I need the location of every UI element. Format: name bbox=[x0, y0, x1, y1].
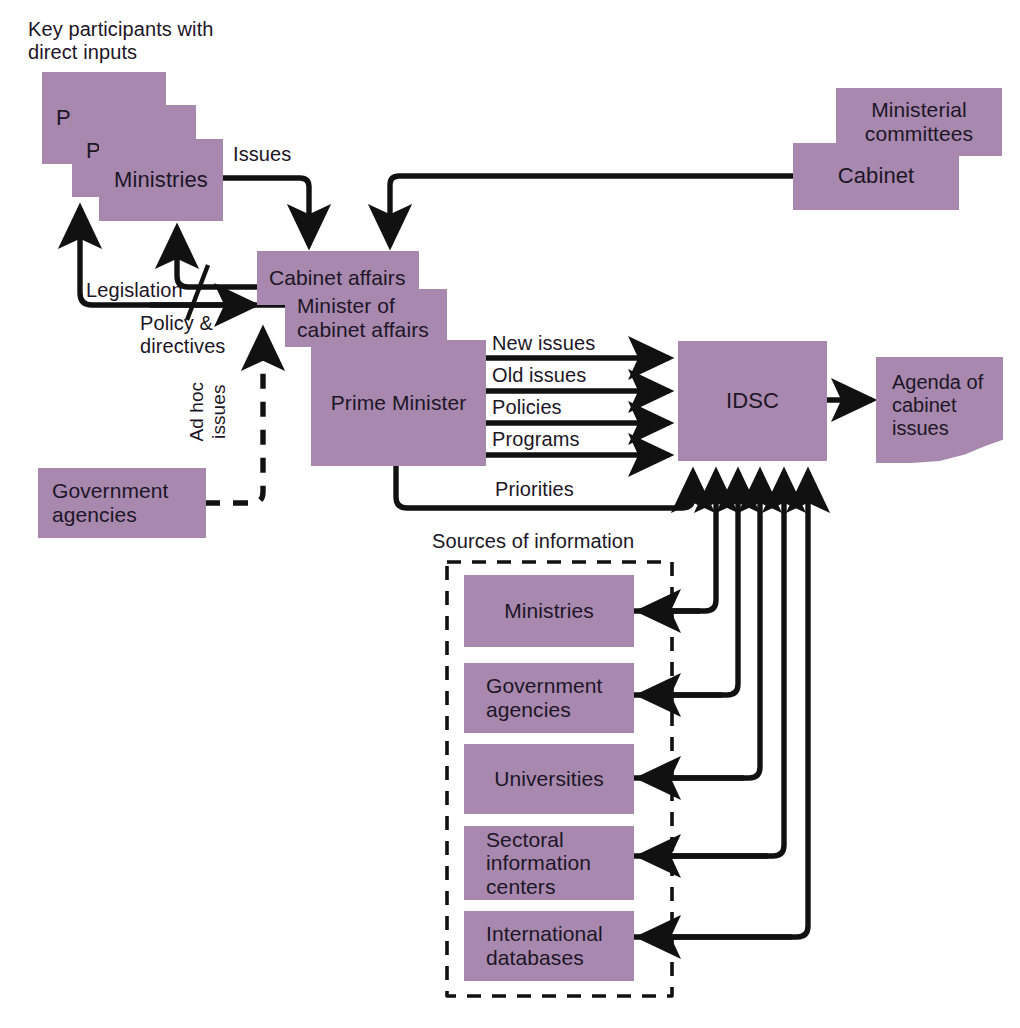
edge-label-old-issues: Old issues bbox=[492, 364, 586, 387]
node-ministries-top[interactable]: Ministries bbox=[99, 139, 223, 221]
node-idsc[interactable]: IDSC bbox=[678, 341, 827, 461]
edge-label-ad-hoc-issues: Ad hoc issues bbox=[186, 382, 229, 442]
edge-idsc-to-source-universities bbox=[634, 472, 760, 778]
edge-label-legislation: Legislation bbox=[86, 279, 183, 302]
key-participants-note: Key participants with direct inputs bbox=[28, 18, 214, 64]
node-minister-of-cabinet-affairs[interactable]: Minister of cabinet affairs bbox=[285, 289, 447, 347]
diagram-canvas: Key participants with direct inputs Pres… bbox=[0, 0, 1020, 1028]
node-agenda-of-cabinet-issues[interactable]: Agenda of cabinet issues bbox=[876, 357, 1003, 463]
edge-label-issues: Issues bbox=[233, 143, 291, 166]
node-government-agencies[interactable]: Government agencies bbox=[38, 468, 206, 538]
source-box-sectoral-information-centers[interactable]: Sectoral information centers bbox=[464, 826, 634, 900]
source-box-ministries[interactable]: Ministries bbox=[464, 575, 634, 647]
source-box-universities[interactable]: Universities bbox=[464, 744, 634, 814]
source-box-government-agencies[interactable]: Government agencies bbox=[464, 663, 634, 733]
edge-label-programs: Programs bbox=[492, 428, 580, 451]
sources-of-information-caption: Sources of information bbox=[432, 530, 634, 553]
edge-label-priorities: Priorities bbox=[495, 478, 574, 501]
edge-cabinet-to-cabinet-affairs bbox=[390, 176, 795, 245]
node-cabinet[interactable]: Cabinet bbox=[793, 143, 959, 210]
node-prime-minister[interactable]: Prime Minister bbox=[311, 340, 486, 466]
edge-label-policy-directives: Policy & directives bbox=[140, 312, 225, 358]
agenda-label: Agenda of cabinet issues bbox=[876, 357, 983, 439]
edge-label-policies: Policies bbox=[492, 396, 562, 419]
edge-ministries-to-cabinet-affairs bbox=[222, 178, 309, 245]
edge-label-new-issues: New issues bbox=[492, 332, 595, 355]
edge-idsc-to-source-ministries bbox=[634, 472, 716, 611]
source-box-international-databases[interactable]: International databases bbox=[464, 911, 634, 981]
